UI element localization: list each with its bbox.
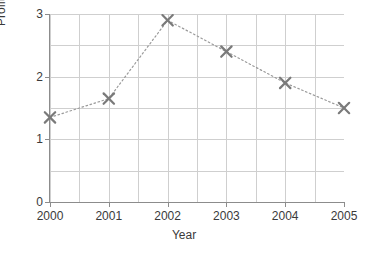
y-tick-mark — [45, 77, 50, 78]
data-point-marker: 2003: 2.4 — [221, 46, 231, 56]
data-point-marker: 2004: 1.9 — [280, 78, 290, 88]
data-point-marker: 2002: 2.9 — [162, 15, 172, 25]
x-tick-label: 2002 — [154, 210, 181, 222]
x-tick-mark — [50, 202, 51, 207]
plot-area: 2000: 1.352001: 1.652002: 2.92003: 2.420… — [49, 14, 344, 203]
x-tick-label: 2003 — [213, 210, 240, 222]
data-point-marker: 2000: 1.35 — [45, 112, 55, 122]
data-point-marker: 2001: 1.65 — [104, 93, 114, 103]
x-tick-label: 2004 — [272, 210, 299, 222]
x-tick-mark — [285, 202, 286, 207]
chart-page: 2000: 1.352001: 1.652002: 2.92003: 2.420… — [0, 0, 368, 255]
data-series-profit: 2000: 1.352001: 1.652002: 2.92003: 2.420… — [50, 14, 344, 202]
x-axis-title: Year — [0, 228, 368, 242]
y-axis-title: Profit (£m) — [0, 0, 8, 58]
x-tick-label: 2005 — [331, 210, 358, 222]
data-point-marker: 2005: 1.5 — [339, 103, 349, 113]
y-tick-mark — [45, 14, 50, 15]
x-tick-mark — [168, 202, 169, 207]
x-tick-mark — [344, 202, 345, 207]
x-tick-label: 2000 — [37, 210, 64, 222]
series-line — [50, 20, 344, 117]
x-tick-mark — [109, 202, 110, 207]
x-tick-label: 2001 — [95, 210, 122, 222]
y-tick-mark — [45, 139, 50, 140]
x-tick-mark — [226, 202, 227, 207]
